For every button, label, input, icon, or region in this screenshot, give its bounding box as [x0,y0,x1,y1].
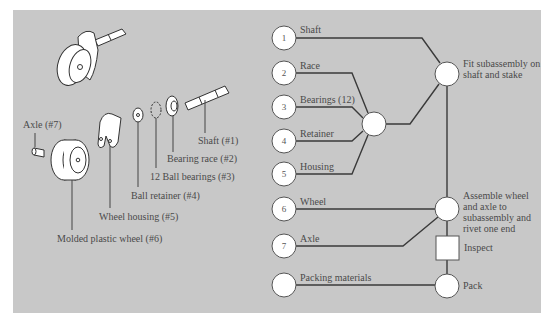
part-label-molded-plastic-wheel: Molded plastic wheel (#6) [57,233,162,244]
ball-bearings-part-icon [151,102,161,118]
fit-operation-node [435,62,459,86]
pack-operation-node [435,274,459,298]
operation-label-inspect: Inspect [464,242,493,253]
input-label-wheel: Wheel [300,196,326,207]
input-label-bearings: Bearings (12) [300,94,355,105]
input-label-packing-materials: Packing materials [300,272,371,283]
input-label-shaft: Shaft [300,24,321,35]
input-number-6: 6 [272,197,296,221]
input-label-housing: Housing [300,161,334,172]
input-label-race: Race [300,60,320,71]
part-label-shaft: Shaft (#1) [198,135,238,146]
part-label-bearing-race: Bearing race (#2) [167,153,237,164]
input-number-4: 4 [272,129,296,153]
assemble-operation-node [435,197,459,221]
inspect-node [436,236,459,260]
molded-plastic-wheel-part-icon [51,140,89,180]
input-label-retainer: Retainer [300,128,334,139]
input-number-2: 2 [272,61,296,85]
input-number-3: 3 [272,95,296,119]
operation-label-assemble: Assemble wheel and axle to subassembly a… [463,190,541,234]
operation-label-pack: Pack [463,280,482,291]
part-label-ball-retainer: Ball retainer (#4) [131,190,200,201]
wheel-housing-part-icon [98,113,121,147]
assembled-caster-icon [52,29,126,89]
part-label-wheel-housing: Wheel housing (#5) [99,211,178,222]
operation-label-fit: Fit subassembly on shaft and stake [463,58,541,80]
bearing-race-part-icon [166,96,178,116]
ball-retainer-part-icon [133,108,143,122]
input-number-5: 5 [272,162,296,186]
input-label-axle: Axle [300,233,319,244]
input-number-1: 1 [272,26,296,50]
input-number-7: 7 [272,234,296,258]
part-label-axle: Axle (#7) [23,119,62,130]
axle-part-icon [32,148,44,157]
shaft-part-icon [185,86,229,110]
input-node-packing [272,273,296,297]
part-label-ball-bearings: 12 Ball bearings (#3) [150,171,235,182]
subassembly-operation-node [362,112,386,136]
